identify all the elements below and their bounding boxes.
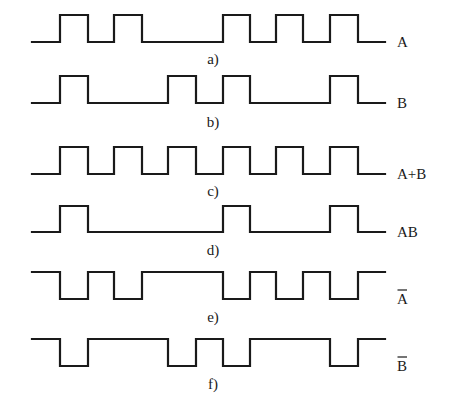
- waveform-d: [32, 206, 385, 232]
- timing-diagram: Aa)Bb)A+Bc)ABd)Ae)Bf): [0, 0, 451, 417]
- caption-a: a): [207, 51, 219, 68]
- waveform-row-d: ABd): [32, 206, 418, 259]
- signal-label-d: AB: [397, 224, 418, 240]
- signal-label-b: B: [397, 95, 407, 111]
- waveform-a: [32, 15, 385, 42]
- waveform-row-f: Bf): [32, 339, 407, 393]
- waveform-row-e: Ae): [32, 272, 408, 326]
- caption-c: c): [207, 183, 219, 200]
- caption-e: e): [207, 309, 219, 326]
- caption-b: b): [207, 114, 220, 131]
- signal-label-e: A: [397, 291, 408, 307]
- signal-label-c: A+B: [397, 166, 426, 182]
- signal-label-a: A: [397, 34, 408, 50]
- waveform-row-c: A+Bc): [32, 147, 426, 200]
- waveform-c: [32, 147, 385, 174]
- waveform-b: [32, 76, 385, 103]
- signal-label-f: B: [397, 358, 407, 374]
- caption-d: d): [207, 242, 220, 259]
- waveform-f: [32, 339, 385, 366]
- waveform-e: [32, 272, 385, 299]
- waveform-row-b: Bb): [32, 76, 407, 131]
- waveform-row-a: Aa): [32, 15, 408, 68]
- caption-f: f): [208, 376, 218, 393]
